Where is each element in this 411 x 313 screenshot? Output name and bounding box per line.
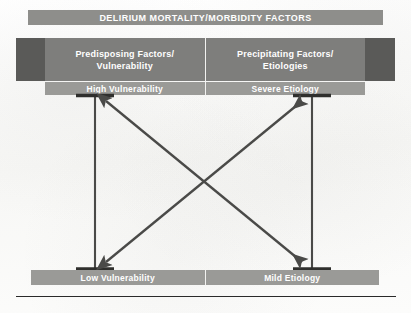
top-label-high-vulnerability: High Vulnerability (45, 82, 205, 95)
column-header-precipitating: Precipitating Factors/ Etiologies (205, 38, 366, 81)
column-header-row: Predisposing Factors/ Vulnerability Prec… (45, 38, 365, 81)
vulnerability-axis (76, 95, 114, 270)
bottom-pole-label-row: Low Vulnerability Mild Etiology (31, 270, 379, 285)
delirium-mortality-morbidity-figure: DELIRIUM MORTALITY/MORBIDITY FACTORS Pre… (0, 0, 411, 313)
column-header-precipitating-line2: Etiologies (263, 60, 308, 72)
arrow-high-vulnerability-mild-etiology (106, 101, 302, 262)
top-pole-label-row: High Vulnerability Severe Etiology (45, 82, 365, 95)
arrow-low-vulnerability-severe-etiology (106, 101, 302, 262)
top-label-severe-etiology: Severe Etiology (205, 82, 366, 95)
column-header-precipitating-line1: Precipitating Factors/ (237, 48, 333, 60)
etiology-axis (293, 95, 331, 270)
bottom-label-mild-etiology: Mild Etiology (205, 270, 380, 285)
figure-title-banner: DELIRIUM MORTALITY/MORBIDITY FACTORS (28, 10, 383, 25)
column-header-predisposing-line1: Predisposing Factors/ (75, 48, 174, 60)
column-header-predisposing-line2: Vulnerability (97, 60, 153, 72)
bottom-label-low-vulnerability: Low Vulnerability (31, 270, 205, 285)
figure-title-text: DELIRIUM MORTALITY/MORBIDITY FACTORS (99, 13, 311, 23)
footer-rule (16, 296, 396, 297)
column-header-predisposing: Predisposing Factors/ Vulnerability (45, 38, 205, 81)
